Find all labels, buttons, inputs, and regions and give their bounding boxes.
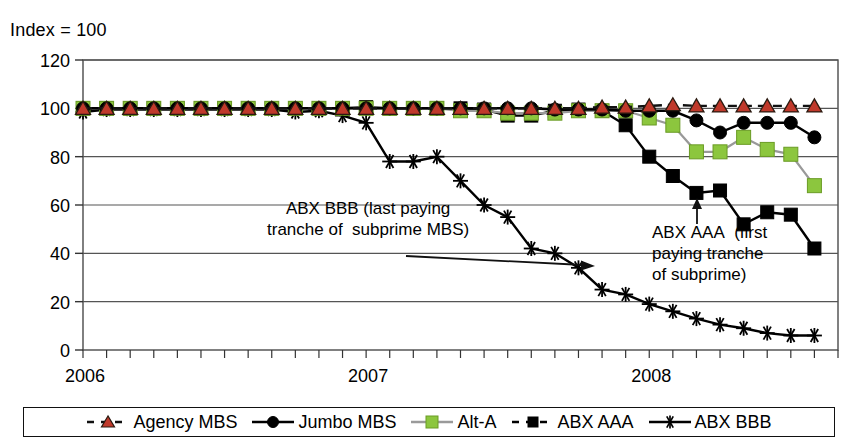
legend-marker-triangle-icon <box>86 414 130 430</box>
marker-square <box>643 150 656 163</box>
marker-circle <box>737 116 750 129</box>
annotation-line: tranche of subprime MBS) <box>267 219 469 240</box>
marker-square <box>784 147 798 161</box>
marker-square <box>690 186 703 199</box>
chart-page: Index = 100 020406080100120200620072008 … <box>0 0 858 448</box>
marker-square <box>689 145 703 159</box>
marker-square <box>666 118 680 132</box>
legend-item-abx-bbb[interactable]: ABX BBB <box>641 412 779 433</box>
legend-marker-square-icon <box>410 414 454 430</box>
marker-square <box>784 208 797 221</box>
y-tick-label: 60 <box>50 196 70 216</box>
y-tick-label: 20 <box>50 293 70 313</box>
y-tick-label: 0 <box>60 341 70 361</box>
x-tick-label: 2008 <box>631 366 671 386</box>
marker-square <box>714 184 727 197</box>
legend-marker-filled-square-icon <box>511 414 555 430</box>
chart-legend: Agency MBSJumbo MBSAlt-AABX AAAABX BBB <box>23 407 835 437</box>
x-tick-label: 2007 <box>348 366 388 386</box>
marker-circle <box>690 114 703 127</box>
annotation-line: ABX BBB (last paying <box>267 198 469 219</box>
legend-label: Alt-A <box>457 412 496 433</box>
abx-aaa-annotation: ABX AAA (firstpaying trancheof subprime) <box>652 222 767 285</box>
marker-circle <box>808 131 821 144</box>
marker-square <box>619 119 632 132</box>
annotation-line: paying tranche <box>652 243 767 264</box>
marker-circle <box>714 126 727 139</box>
legend-item-alt-a[interactable]: Alt-A <box>403 412 503 433</box>
legend-item-agency-mbs[interactable]: Agency MBS <box>79 412 244 433</box>
marker-circle <box>761 116 774 129</box>
marker-square <box>761 206 774 219</box>
legend-marker-circle-icon <box>251 414 295 430</box>
legend-label: ABX BBB <box>695 412 772 433</box>
y-tick-label: 120 <box>40 51 70 71</box>
y-tick-label: 80 <box>50 148 70 168</box>
annotation-line: of subprime) <box>652 264 767 285</box>
legend-marker-asterisk-icon <box>648 414 692 430</box>
marker-square <box>713 145 727 159</box>
y-tick-label: 100 <box>40 99 70 119</box>
marker-square <box>666 170 679 183</box>
y-tick-label: 40 <box>50 244 70 264</box>
legend-item-jumbo-mbs[interactable]: Jumbo MBS <box>244 412 403 433</box>
marker-square <box>760 142 774 156</box>
abx-bbb-annotation: ABX BBB (last payingtranche of subprime … <box>267 198 469 240</box>
annotation-line: ABX AAA (first <box>652 222 767 243</box>
legend-label: ABX AAA <box>558 412 634 433</box>
legend-label: Agency MBS <box>133 412 237 433</box>
legend-label: Jumbo MBS <box>298 412 396 433</box>
marker-circle <box>784 116 797 129</box>
x-tick-label: 2006 <box>65 366 105 386</box>
legend-item-abx-aaa[interactable]: ABX AAA <box>504 412 641 433</box>
marker-square <box>807 179 821 193</box>
marker-square <box>808 242 821 255</box>
marker-square <box>737 130 751 144</box>
